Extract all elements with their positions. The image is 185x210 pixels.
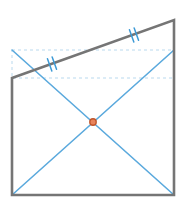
dashed-guide-rectangle: [12, 50, 174, 78]
gray-quadrilateral: [12, 20, 174, 195]
diagonal-intersection-point: [90, 119, 96, 125]
geometry-figure-svg: [0, 0, 185, 210]
geometry-figure-canvas: [0, 0, 185, 210]
